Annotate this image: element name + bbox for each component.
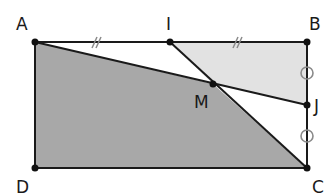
point-a <box>32 39 39 46</box>
point-c <box>304 165 311 172</box>
point-m <box>210 81 217 88</box>
label-a: A <box>16 14 28 34</box>
label-d: D <box>16 177 29 195</box>
point-b <box>304 39 311 46</box>
label-c: C <box>312 177 324 195</box>
point-d <box>32 165 39 172</box>
point-i <box>167 39 174 46</box>
label-i: I <box>166 14 171 34</box>
point-j <box>304 102 311 109</box>
geometry-figure: A I B M J C D <box>0 0 328 195</box>
label-j: J <box>313 96 319 116</box>
label-m: M <box>194 92 209 112</box>
label-b: B <box>309 14 321 34</box>
